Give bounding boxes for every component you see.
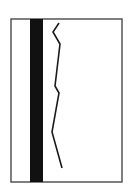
background (0, 0, 129, 191)
vertical-bar (30, 19, 43, 182)
diagram-canvas (0, 0, 129, 191)
